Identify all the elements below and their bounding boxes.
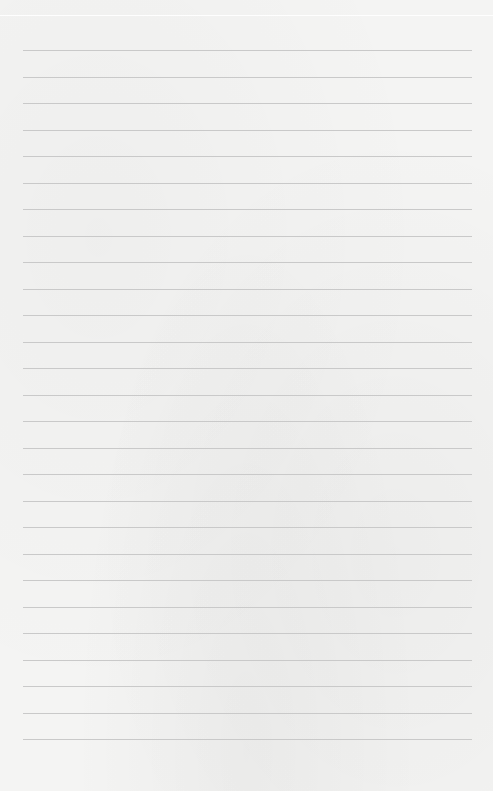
ruled-line (23, 421, 472, 422)
lined-paper-sheet (0, 0, 493, 791)
top-edge (0, 15, 493, 16)
ruled-line (23, 686, 472, 687)
ruled-line (23, 315, 472, 316)
ruled-line (23, 156, 472, 157)
ruled-line (23, 527, 472, 528)
ruled-line (23, 501, 472, 502)
ruled-line (23, 739, 472, 740)
ruled-line (23, 474, 472, 475)
ruled-line (23, 262, 472, 263)
ruled-line (23, 368, 472, 369)
ruled-line (23, 633, 472, 634)
ruled-line (23, 607, 472, 608)
ruled-line (23, 554, 472, 555)
ruled-line (23, 103, 472, 104)
ruled-line (23, 130, 472, 131)
ruled-line (23, 209, 472, 210)
ruled-line (23, 448, 472, 449)
ruled-line (23, 580, 472, 581)
ruled-line (23, 342, 472, 343)
ruled-line (23, 77, 472, 78)
ruled-line (23, 50, 472, 51)
ruled-line (23, 660, 472, 661)
ruled-line (23, 713, 472, 714)
ruled-line (23, 236, 472, 237)
ruled-line (23, 395, 472, 396)
ruled-line (23, 289, 472, 290)
ruled-line (23, 183, 472, 184)
